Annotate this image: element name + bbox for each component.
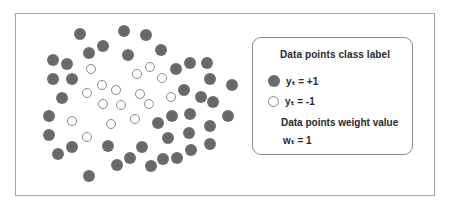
positive-point: [184, 57, 196, 69]
legend-weight-title: Data points weight value: [281, 117, 398, 128]
negative-point: [97, 80, 107, 90]
legend-box: Data points class label yₜ = +1 yₜ = -1 …: [252, 37, 413, 155]
negative-point: [132, 69, 142, 79]
positive-point: [56, 92, 68, 104]
positive-point: [140, 29, 152, 41]
positive-point: [66, 141, 78, 153]
positive-point: [204, 73, 216, 85]
negative-point: [106, 119, 116, 129]
positive-point: [171, 152, 183, 164]
positive-point: [170, 63, 182, 75]
negative-point: [166, 92, 176, 102]
positive-point: [178, 84, 190, 96]
positive-point: [122, 49, 134, 61]
positive-point: [43, 110, 55, 122]
negative-point: [116, 100, 126, 110]
positive-point: [204, 138, 216, 150]
positive-point: [74, 28, 86, 40]
legend-positive-label: yₜ = +1: [286, 76, 318, 87]
positive-point: [83, 47, 95, 59]
filled-circle-icon: [268, 75, 280, 87]
negative-point: [98, 99, 108, 109]
positive-point: [43, 129, 55, 141]
positive-point: [83, 170, 95, 182]
positive-point: [195, 91, 207, 103]
positive-point: [166, 110, 178, 122]
positive-point: [185, 144, 197, 156]
positive-point: [226, 79, 238, 91]
negative-point: [157, 73, 167, 83]
positive-point: [52, 148, 64, 160]
positive-point: [47, 73, 59, 85]
positive-point: [222, 110, 234, 122]
legend-weight-label: wₜ = 1: [283, 135, 312, 146]
positive-point: [145, 160, 157, 172]
positive-point: [204, 120, 216, 132]
positive-point: [118, 25, 130, 37]
legend-class-title: Data points class label: [280, 49, 390, 60]
negative-point: [111, 85, 121, 95]
positive-point: [124, 152, 136, 164]
positive-point: [162, 132, 174, 144]
negative-point: [82, 132, 92, 142]
hollow-circle-icon: [268, 96, 279, 107]
positive-point: [111, 159, 123, 171]
legend-row-positive: yₜ = +1: [268, 75, 318, 87]
positive-point: [155, 44, 167, 56]
positive-point: [102, 140, 114, 152]
positive-point: [184, 108, 196, 120]
positive-point: [157, 153, 169, 165]
positive-point: [47, 54, 59, 66]
negative-point: [86, 64, 96, 74]
negative-point: [67, 116, 77, 126]
positive-point: [66, 73, 78, 85]
legend-row-negative: yₜ = -1: [268, 95, 315, 107]
negative-point: [135, 89, 145, 99]
positive-point: [136, 141, 148, 153]
legend-negative-label: yₜ = -1: [285, 96, 315, 107]
positive-point: [207, 96, 219, 108]
negative-point: [130, 114, 140, 124]
negative-point: [144, 99, 154, 109]
positive-point: [183, 127, 195, 139]
negative-point: [82, 88, 92, 98]
positive-point: [201, 57, 213, 69]
positive-point: [97, 40, 109, 52]
positive-point: [152, 117, 164, 129]
negative-point: [145, 62, 155, 72]
positive-point: [61, 58, 73, 70]
